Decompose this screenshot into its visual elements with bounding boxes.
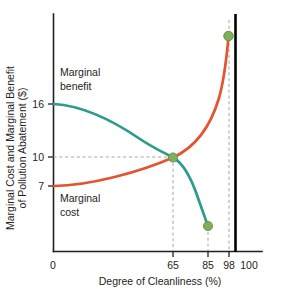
y-tick-label-10: 10: [32, 151, 44, 163]
x-axis-title: Degree of Cleanliness (%): [99, 275, 222, 287]
intersection-marker: [168, 153, 177, 162]
x-tick-label-65: 65: [167, 259, 179, 271]
chart-container: Marginal Cost and Marginal Benefit of Po…: [0, 0, 288, 290]
y-tick-label-7: 7: [38, 180, 44, 192]
x-tick-label-0: 0: [50, 259, 56, 271]
x-tick-label-100: 100: [240, 259, 258, 271]
marginal-cost-label-line2: cost: [60, 206, 79, 218]
x-tick-label-98: 98: [223, 259, 235, 271]
marginal-benefit-label-line1: Marginal: [60, 66, 100, 78]
guide-lines: [54, 20, 230, 251]
marginal-cost-label-line1: Marginal: [60, 192, 100, 204]
marginal-benefit-label-line2: benefit: [60, 80, 92, 92]
x-axis-ticks: 0 65 85 98 100: [50, 252, 258, 272]
y-tick-label-16: 16: [32, 98, 44, 110]
data-point-markers: [168, 31, 233, 230]
x-tick-label-85: 85: [202, 259, 214, 271]
marginal-benefit-endpoint-marker: [203, 221, 212, 230]
marginal-cost-label: Marginal cost: [60, 192, 100, 218]
marginal-cost-curve: [54, 37, 229, 186]
y-axis-title-line2: of Pollution Abatement ($): [16, 88, 28, 209]
marginal-cost-endpoint-marker: [224, 31, 234, 41]
y-axis-ticks: 16 10 7: [32, 98, 53, 192]
marginal-benefit-label: Marginal benefit: [60, 66, 100, 92]
y-axis-title-line1: Marginal Cost and Marginal Benefit: [4, 66, 16, 230]
pollution-abatement-chart: Marginal Cost and Marginal Benefit of Po…: [0, 0, 288, 290]
y-axis-title: Marginal Cost and Marginal Benefit of Po…: [4, 66, 28, 230]
